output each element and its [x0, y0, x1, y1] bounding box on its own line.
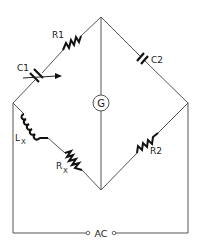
capacitor-c1	[30, 69, 43, 82]
svg-text:X: X	[21, 138, 26, 146]
label-rx: R X	[56, 161, 68, 175]
label-r2: R2	[150, 146, 162, 156]
label-ac: AC	[95, 228, 108, 239]
wire-left-bottom	[13, 103, 101, 190]
label-c1: C1	[17, 63, 29, 73]
svg-text:L: L	[15, 133, 20, 143]
svg-text:X: X	[63, 167, 68, 175]
ac-source: AC	[86, 228, 116, 239]
galvanometer: G	[93, 95, 109, 111]
resistor-r1	[63, 36, 81, 50]
inductor-lx	[22, 114, 48, 139]
wire-bottom-right	[101, 103, 188, 190]
terminal-left-icon	[86, 231, 90, 235]
label-lx: L X	[15, 133, 26, 146]
svg-text:R: R	[56, 161, 62, 171]
bridge-circuit-diagram: C1 R1 C2 G L X R X R2 AC	[0, 0, 199, 244]
label-r1: R1	[52, 30, 64, 40]
label-g: G	[97, 98, 105, 109]
label-c2: C2	[151, 55, 163, 65]
terminal-right-icon	[112, 231, 116, 235]
